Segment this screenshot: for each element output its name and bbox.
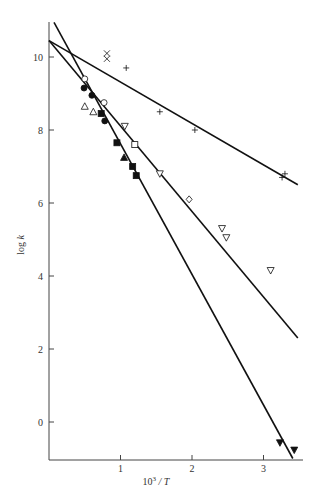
filled-square-marker: [114, 140, 120, 146]
line-middle: [49, 41, 298, 338]
y-tick-label: 8: [38, 125, 43, 136]
filled-circle-marker: [81, 85, 87, 91]
filled-circle-marker: [89, 92, 95, 98]
y-tick-label: 2: [38, 344, 43, 355]
open-triangle-down-marker: [219, 226, 226, 233]
filled-square-marker: [130, 164, 136, 170]
plus-marker: [279, 174, 285, 180]
line-shallow: [49, 41, 298, 185]
open-triangle-down-marker: [267, 268, 274, 275]
data-points: [81, 50, 298, 453]
line-steep: [54, 22, 293, 458]
chart-canvas: 1230246810 103 / T log k: [0, 0, 319, 503]
plus-marker: [192, 127, 198, 133]
filled-square-marker: [133, 173, 139, 179]
axes: 1230246810: [33, 22, 303, 474]
cross-x-marker: [104, 56, 110, 62]
x-tick-label: 1: [118, 463, 123, 474]
cross-x-marker: [104, 50, 110, 56]
x-tick-label: 2: [190, 463, 195, 474]
y-tick-label: 4: [38, 271, 43, 282]
x-tick-label: 3: [261, 463, 266, 474]
open-circle-marker: [101, 100, 107, 106]
filled-triangle-down-marker: [291, 447, 298, 454]
open-circle-marker: [82, 76, 88, 82]
open-diamond-marker: [186, 196, 192, 203]
filled-circle-marker: [102, 118, 108, 124]
open-triangle-up-marker: [81, 103, 88, 110]
filled-triangle-down-marker: [276, 440, 283, 447]
open-triangle-up-marker: [90, 108, 97, 115]
x-axis-title: 103 / T: [143, 475, 171, 487]
open-square-marker: [132, 142, 138, 148]
plus-marker: [157, 109, 163, 115]
y-axis-title: log k: [15, 235, 26, 255]
y-tick-label: 0: [38, 417, 43, 428]
open-triangle-down-marker: [223, 235, 230, 242]
y-tick-label: 10: [33, 52, 43, 63]
y-tick-label: 6: [38, 198, 43, 209]
plus-marker: [123, 65, 129, 71]
filled-square-marker: [98, 111, 104, 117]
